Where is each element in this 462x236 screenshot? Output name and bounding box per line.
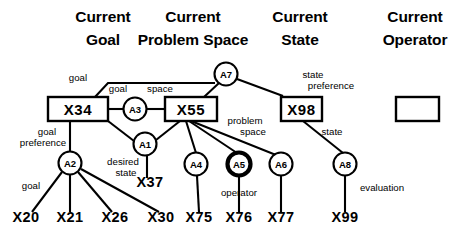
column-header-current-operator-line2: Operator xyxy=(383,31,448,48)
edge-X34-to-A1 xyxy=(108,121,134,141)
column-header-current-goal-line2: Goal xyxy=(86,31,120,48)
leaf-node-X99[interactable]: X99 xyxy=(332,209,359,225)
node-circle-label-A2: A2 xyxy=(64,158,76,169)
node-circle-label-A6: A6 xyxy=(275,159,287,170)
label-evaluation: evaluation xyxy=(360,182,404,193)
leaf-nodes-group: X20X21X26X30X37X75X76X77X99 xyxy=(13,174,359,225)
edge-A7-to-X98 xyxy=(237,79,283,96)
node-circle-label-A1: A1 xyxy=(139,139,152,150)
node-box-label-X98: X98 xyxy=(287,101,316,118)
label-goal-a3: goal xyxy=(109,83,127,94)
leaf-node-X37[interactable]: X37 xyxy=(137,174,164,190)
leaf-node-X26[interactable]: X26 xyxy=(102,209,129,225)
label-operator: operator xyxy=(221,187,258,198)
edge-A4-to-X75 xyxy=(197,176,199,212)
node-circle-label-A4: A4 xyxy=(190,159,203,170)
leaf-node-X21[interactable]: X21 xyxy=(57,209,84,225)
label-state-pref-2: preference xyxy=(308,80,354,91)
column-header-current-goal-line1: Current xyxy=(75,8,130,25)
node-box-label-X55: X55 xyxy=(177,101,206,118)
edge-A2-to-X20 xyxy=(32,172,62,212)
label-state-pref-1: state xyxy=(302,69,323,80)
column-headers-group: CurrentGoalCurrentProblem SpaceCurrentSt… xyxy=(75,8,447,48)
leaf-node-X20[interactable]: X20 xyxy=(13,209,40,225)
diagram-root: CurrentGoalCurrentProblem SpaceCurrentSt… xyxy=(0,0,462,236)
node-circle-label-A3: A3 xyxy=(129,104,141,115)
column-header-current-operator-line1: Current xyxy=(387,8,442,25)
label-goal-pref-2: preference xyxy=(20,137,66,148)
label-goal-a2: goal xyxy=(22,180,40,191)
label-desired-2: state xyxy=(115,167,136,178)
edge-A2-to-X26 xyxy=(78,172,112,212)
node-circle-label-A7: A7 xyxy=(220,69,232,80)
diagram-canvas: CurrentGoalCurrentProblem SpaceCurrentSt… xyxy=(0,0,462,236)
node-circle-label-A5: A5 xyxy=(233,159,246,170)
leaf-node-X76[interactable]: X76 xyxy=(226,209,253,225)
label-space: space xyxy=(147,83,173,94)
label-problem-space-2: space xyxy=(240,126,266,137)
label-state: state xyxy=(321,126,342,137)
node-box-label-X34: X34 xyxy=(64,101,93,118)
column-header-current-problem-space-line1: Current xyxy=(165,8,220,25)
label-problem-space-1: problem xyxy=(228,115,263,126)
edge-X55-to-A7 xyxy=(204,83,219,97)
leaf-node-X77[interactable]: X77 xyxy=(268,209,295,225)
edge-A1-to-X55 xyxy=(156,121,180,140)
leaf-node-X30[interactable]: X30 xyxy=(148,209,175,225)
column-header-current-problem-space-line2: Problem Space xyxy=(138,31,249,48)
node-circle-label-A8: A8 xyxy=(339,159,351,170)
label-desired-1: desired xyxy=(107,156,139,167)
column-header-current-state-line2: State xyxy=(281,31,319,48)
label-goal-top: goal xyxy=(69,72,87,83)
leaf-node-X75[interactable]: X75 xyxy=(186,209,213,225)
node-box-OP[interactable] xyxy=(396,97,439,121)
label-goal-pref-1: goal xyxy=(38,126,56,137)
column-header-current-state-line1: Current xyxy=(272,8,327,25)
